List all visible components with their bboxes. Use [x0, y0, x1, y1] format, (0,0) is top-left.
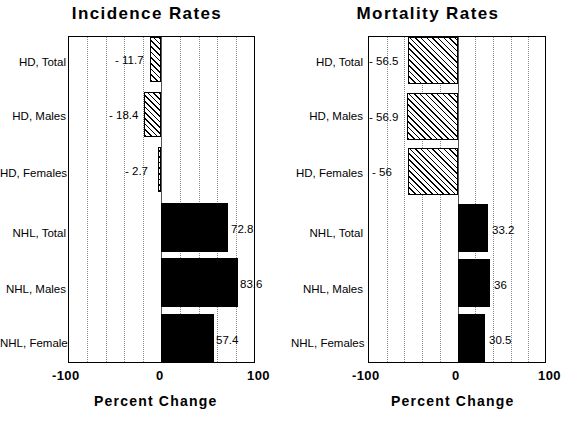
- bar-nhl-females-left: [161, 314, 214, 363]
- bars-incidence: [69, 37, 254, 362]
- category-label-nhl-total-right: NHL, Total: [291, 228, 363, 240]
- bar-hd-males-left: [144, 92, 161, 137]
- value-label-nhl-males-right: 36: [494, 280, 507, 292]
- value-label-hd-total-right: - 56.5: [369, 56, 398, 68]
- bar-nhl-total-right: [458, 204, 488, 252]
- category-label-hd-females-left: HD, Females: [0, 168, 66, 180]
- xtick-100-left: 100: [247, 369, 270, 382]
- xtick--100-left: -100: [52, 369, 80, 382]
- xtick-100-right: 100: [538, 369, 561, 382]
- value-label-nhl-females-left: 57.4: [216, 335, 238, 347]
- value-label-nhl-males-left: 83.6: [240, 279, 262, 291]
- bar-nhl-total-left: [161, 203, 228, 252]
- category-label-hd-males-left: HD, Males: [0, 111, 66, 123]
- bars-mortality: [369, 37, 545, 362]
- category-label-nhl-males-left: NHL, Males: [0, 284, 66, 296]
- value-label-hd-females-left: - 2.7: [125, 166, 148, 178]
- panel-mortality-rates: Mortality Rates HD, Total HD, Males HD, …: [291, 0, 581, 424]
- value-label-nhl-total-left: 72.8: [231, 224, 253, 236]
- xaxis-title-right: Percent Change: [391, 393, 514, 409]
- xtick-0-left: 0: [156, 369, 164, 382]
- category-label-hd-females-right: HD, Females: [291, 168, 363, 180]
- plot-area-incidence: - 11.7 - 18.4 - 2.7 72.8 83.6 57.4: [68, 36, 255, 363]
- value-label-nhl-total-right: 33.2: [492, 225, 514, 237]
- xtick-0-right: 0: [452, 369, 460, 382]
- value-label-hd-total-left: - 11.7: [115, 55, 144, 67]
- chart-title-mortality: Mortality Rates: [283, 4, 573, 24]
- value-label-nhl-females-right: 30.5: [489, 335, 511, 347]
- bar-hd-females-left: [158, 147, 161, 192]
- category-label-nhl-males-right: NHL, Males: [291, 284, 363, 296]
- bar-nhl-males-right: [458, 259, 490, 307]
- chart-title-incidence: Incidence Rates: [2, 4, 292, 24]
- bar-nhl-females-right: [458, 314, 485, 362]
- value-label-hd-males-right: - 56.9: [369, 112, 398, 124]
- category-label-hd-total-left: HD, Total: [0, 57, 66, 69]
- bar-hd-total-right: [408, 37, 458, 84]
- value-label-hd-females-right: - 56: [372, 167, 392, 179]
- category-label-nhl-females-right: NHL, Females: [291, 338, 363, 350]
- bar-nhl-males-left: [161, 258, 238, 307]
- category-label-nhl-total-left: NHL, Total: [0, 228, 66, 240]
- category-label-nhl-females-left: NHL, Females: [0, 338, 66, 350]
- xtick--100-right: -100: [352, 369, 380, 382]
- value-label-hd-males-left: - 18.4: [109, 110, 138, 122]
- panel-incidence-rates: Incidence Rates HD, Total HD, Males HD, …: [0, 0, 290, 424]
- xaxis-title-left: Percent Change: [94, 393, 217, 409]
- category-label-hd-total-right: HD, Total: [291, 57, 363, 69]
- category-label-hd-males-right: HD, Males: [291, 111, 363, 123]
- figure-two-panel-bar-charts: Incidence Rates HD, Total HD, Males HD, …: [0, 0, 581, 424]
- bar-hd-females-right: [408, 148, 458, 195]
- plot-area-mortality: - 56.5 - 56.9 - 56 33.2 36 30.5: [368, 36, 546, 363]
- bar-hd-males-right: [407, 93, 458, 140]
- bar-hd-total-left: [150, 37, 161, 82]
